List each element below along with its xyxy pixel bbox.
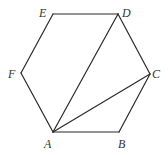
- edge-ef: [21, 14, 53, 73]
- diagonal-ac: [53, 74, 150, 132]
- vertex-label-c: C: [152, 67, 161, 81]
- vertex-label-f: F: [7, 67, 16, 81]
- hexagon-diagram: A B C D E F: [0, 0, 168, 155]
- vertex-labels: A B C D E F: [7, 6, 161, 151]
- vertex-label-a: A: [43, 137, 52, 151]
- vertex-label-b: B: [118, 137, 126, 151]
- diagonal-ad: [53, 14, 118, 132]
- hexagon-diagonals: [53, 14, 150, 132]
- vertex-label-e: E: [38, 6, 47, 20]
- vertex-label-d: D: [121, 6, 131, 20]
- edge-cd: [118, 14, 150, 74]
- edge-fa: [21, 73, 53, 132]
